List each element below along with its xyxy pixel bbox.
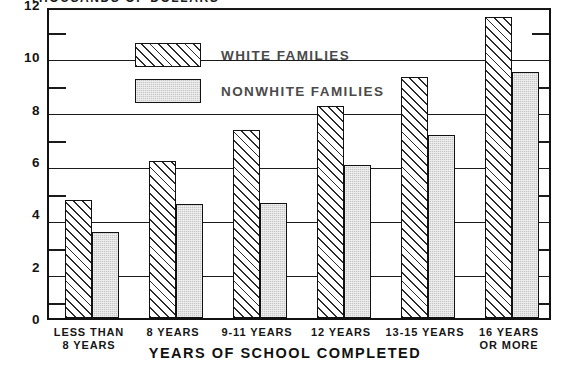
bar-white-group-4	[317, 106, 344, 318]
x-axis-label-group-4: 12 YEARS	[299, 326, 383, 339]
bar-nonwhite-group-6	[512, 72, 539, 318]
x-axis-title: YEARS OF SCHOOL COMPLETED	[0, 345, 570, 361]
y-axis-label-12: 12	[6, 0, 40, 13]
y-axis-label-6: 6	[6, 155, 40, 170]
bar-white-group-3	[233, 130, 260, 318]
bar-nonwhite-group-5	[428, 135, 455, 318]
y-axis-label-4: 4	[6, 207, 40, 222]
bar-nonwhite-group-2	[176, 204, 203, 318]
y-axis-label-10: 10	[6, 50, 40, 65]
y-axis-label-8: 8	[6, 103, 40, 118]
bar-nonwhite-group-3	[260, 203, 287, 318]
y-axis-label-0: 0	[6, 312, 40, 327]
y-axis-label-2: 2	[6, 260, 40, 275]
chart-figure: THOUSANDS OF DOLLARS WHITE FAMILIES	[0, 0, 570, 373]
bar-nonwhite-group-1	[92, 232, 119, 318]
bar-white-group-5	[401, 77, 428, 318]
x-axis-label-group-2: 8 YEARS	[131, 326, 215, 339]
bar-white-group-6	[485, 17, 512, 318]
bar-white-group-1	[65, 200, 92, 318]
x-axis-label-group-5: 13-15 YEARS	[383, 326, 467, 339]
x-axis-label-group-3: 9-11 YEARS	[215, 326, 299, 339]
bar-white-group-2	[149, 161, 176, 318]
bar-nonwhite-group-4	[344, 165, 371, 318]
